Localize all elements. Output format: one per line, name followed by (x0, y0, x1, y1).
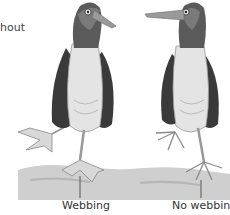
booby-feet-illustration (0, 0, 230, 215)
label-webbing: Webbing (62, 199, 110, 212)
left-bird-webbed (18, 2, 116, 182)
webbed-foot-lifted (18, 128, 52, 152)
right-bird-beak (145, 10, 184, 20)
label-no-webbing: No webbing (172, 199, 230, 212)
ground (18, 165, 230, 200)
right-bird-not-webbed (145, 2, 222, 180)
